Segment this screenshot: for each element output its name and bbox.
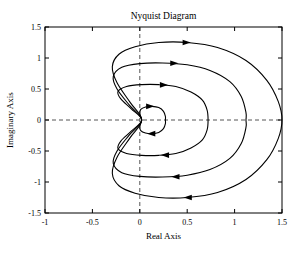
- y-tick-label: 1.5: [31, 23, 41, 32]
- y-tick-label: -1: [34, 178, 41, 187]
- x-tick-label: -0.5: [86, 218, 99, 227]
- y-tick-label: -0.5: [28, 147, 41, 156]
- x-tick-label: 0.5: [182, 218, 192, 227]
- x-tick-label: 0: [138, 218, 142, 227]
- y-tick-label: 1: [37, 54, 41, 63]
- nyquist-plot-svg: -1-0.500.511.5-1.5-1-0.500.511.5Nyquist …: [0, 0, 302, 257]
- y-tick-label: 0: [37, 116, 41, 125]
- x-axis-label: Real Axis: [146, 231, 182, 241]
- y-tick-label: 0.5: [31, 85, 41, 94]
- x-tick-label: 1: [233, 218, 237, 227]
- plot-title: Nyquist Diagram: [131, 11, 197, 21]
- nyquist-diagram-figure: -1-0.500.511.5-1.5-1-0.500.511.5Nyquist …: [0, 0, 302, 257]
- x-tick-label: -1: [42, 218, 49, 227]
- y-tick-label: -1.5: [28, 209, 41, 218]
- y-axis-label: Imaginary Axis: [5, 92, 15, 148]
- x-tick-label: 1.5: [277, 218, 287, 227]
